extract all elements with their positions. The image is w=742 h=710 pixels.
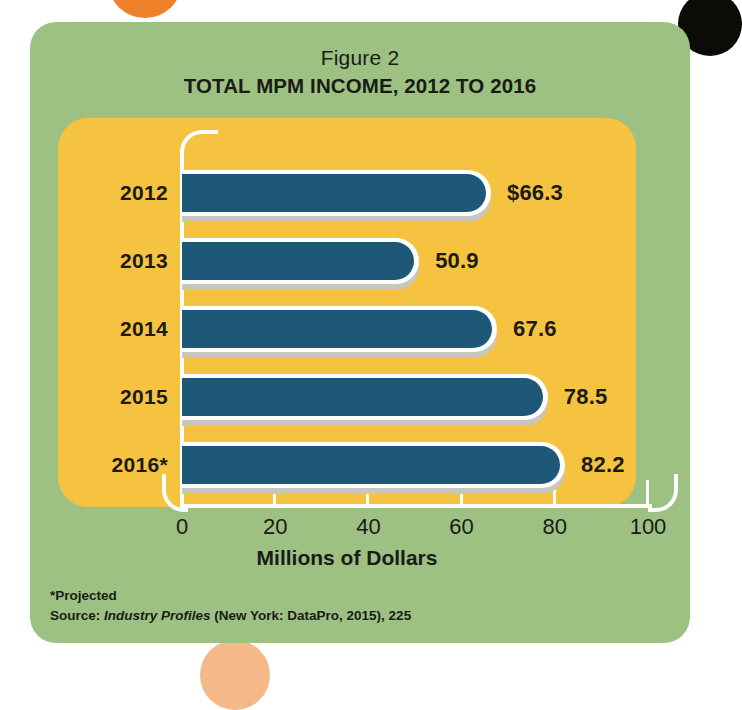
bar-row: 201350.9 (58, 230, 636, 292)
bar-row: 2016*82.2 (58, 434, 636, 496)
footnotes: *Projected Source: Industry Profiles (Ne… (50, 586, 670, 625)
x-axis-tick-100 (646, 480, 649, 506)
bar-row: 201578.5 (58, 366, 636, 428)
x-tick-label-80: 80 (543, 514, 567, 540)
footnote-projected: *Projected (50, 586, 670, 606)
x-axis-title: Millions of Dollars (58, 546, 636, 570)
bar-value-label: $66.3 (507, 180, 563, 206)
x-tick-label-20: 20 (263, 514, 287, 540)
x-tick-label-0: 0 (176, 514, 188, 540)
source-prefix: Source: (50, 608, 104, 623)
bar-value-label: 50.9 (435, 248, 479, 274)
plot-area: 2012$66.3201350.9201467.6201578.52016*82… (58, 118, 636, 507)
bar-value-label: 67.6 (513, 316, 557, 342)
bar-category-label: 2013 (58, 249, 168, 273)
bar-fill[interactable] (182, 378, 543, 416)
bar-track (182, 374, 548, 420)
x-tick-label-60: 60 (449, 514, 473, 540)
figure-label: Figure 2 (30, 46, 690, 70)
bar-category-label: 2016* (58, 453, 168, 477)
bar-track (182, 238, 419, 284)
x-tick-label-40: 40 (356, 514, 380, 540)
figure-card: Figure 2 TOTAL MPM INCOME, 2012 TO 2016 … (30, 22, 690, 643)
bar-category-label: 2012 (58, 181, 168, 205)
bar-track (182, 170, 491, 216)
bar-row: 2012$66.3 (58, 162, 636, 224)
source-suffix: (New York: DataPro, 2015), 225 (211, 608, 412, 623)
bar-track (182, 442, 565, 488)
bar-value-label: 78.5 (564, 384, 608, 410)
bar-row: 201467.6 (58, 298, 636, 360)
x-axis-line (180, 504, 652, 508)
orange-circle-decoration (108, 0, 182, 18)
bar-category-label: 2015 (58, 385, 168, 409)
footnote-source: Source: Industry Profiles (New York: Dat… (50, 606, 670, 626)
chart-title: TOTAL MPM INCOME, 2012 TO 2016 (30, 74, 690, 98)
plot-panel: 2012$66.3201350.9201467.6201578.52016*82… (58, 118, 636, 507)
bar-fill[interactable] (182, 174, 486, 212)
bar-value-label: 82.2 (581, 452, 625, 478)
orange-circle-bottom-decoration (200, 640, 270, 710)
axis-curl-decoration (180, 130, 218, 166)
x-axis-tick-labels: 020406080100 (58, 514, 636, 544)
x-tick-label-100: 100 (630, 514, 667, 540)
axis-right-curve-decoration (648, 474, 678, 512)
bar-track (182, 306, 497, 352)
bar-fill[interactable] (182, 242, 414, 280)
bar-fill[interactable] (182, 446, 560, 484)
source-title-italic: Industry Profiles (104, 608, 211, 623)
bar-category-label: 2014 (58, 317, 168, 341)
bar-fill[interactable] (182, 310, 492, 348)
